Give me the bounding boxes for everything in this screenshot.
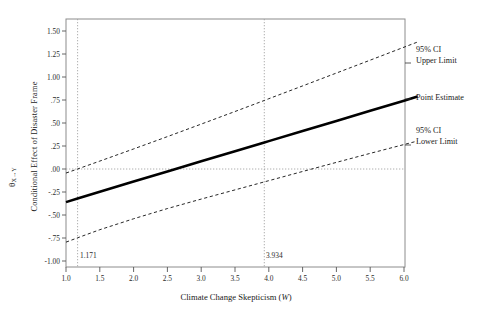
- x-axis-title-tail: ): [289, 292, 292, 302]
- xtick-label: 3.5: [230, 274, 240, 283]
- x-axis-ticks: [66, 267, 404, 272]
- theta-symbol: θ: [7, 182, 17, 187]
- ytick-label: -.50: [48, 211, 60, 220]
- vline-label-low: 1.171: [80, 251, 97, 260]
- ytick-label: -.75: [48, 234, 60, 243]
- chart-figure: 1.50 1.25 1.00 .75 .50 .25 .00 -.25 -.50…: [0, 0, 480, 321]
- x-axis-title-italic: W: [281, 292, 288, 302]
- annotation-lower-ci-line2: Lower Limit: [416, 137, 458, 148]
- y-axis-symbol-label: θX→Y: [7, 147, 17, 207]
- y-axis-ticks: [62, 31, 66, 261]
- xtick-label: 5.5: [366, 274, 376, 283]
- xtick-label: 3.0: [197, 274, 207, 283]
- x-axis-title-text: Climate Change Skepticism (: [180, 292, 281, 302]
- ytick-label: .00: [51, 165, 61, 174]
- theta-subscript: X→Y: [10, 167, 17, 182]
- y-axis-label-group: θX→Y Conditional Effect of Disaster Fram…: [4, 0, 50, 321]
- plot-frame: [66, 19, 405, 267]
- ytick-label: -.25: [48, 188, 60, 197]
- xtick-label: 5.0: [332, 274, 342, 283]
- annotation-upper-ci-line2: Upper Limit: [416, 56, 457, 67]
- ytick-label: .50: [51, 119, 61, 128]
- xtick-label: 1.0: [61, 274, 71, 283]
- annotation-upper-ci-line1: 95% CI: [416, 45, 457, 56]
- conditional-effect-plot: 1.50 1.25 1.00 .75 .50 .25 .00 -.25 -.50…: [0, 0, 480, 321]
- y-axis-title: Conditional Effect of Disaster Frame: [30, 62, 39, 232]
- annotation-lower-ci: 95% CI Lower Limit: [416, 126, 458, 147]
- annotation-point-estimate: Point Estimate: [416, 93, 464, 104]
- x-axis-title: Climate Change Skepticism (W): [66, 292, 406, 302]
- annotation-lower-ci-line1: 95% CI: [416, 126, 458, 137]
- annotation-leaders: [405, 63, 411, 145]
- xtick-label: 1.5: [95, 274, 105, 283]
- x-axis-tick-labels: 1.0 1.5 2.0 2.5 3.0 3.5 4.0 4.5 5.0 5.5 …: [61, 274, 409, 283]
- xtick-label: 4.0: [264, 274, 274, 283]
- ytick-label: .25: [51, 142, 61, 151]
- xtick-label: 4.5: [298, 274, 308, 283]
- xtick-label: 2.0: [129, 274, 139, 283]
- ytick-label: .75: [51, 96, 61, 105]
- xtick-label: 2.5: [163, 274, 173, 283]
- xtick-label: 6.0: [399, 274, 409, 283]
- vline-label-high: 3.934: [266, 251, 283, 260]
- annotation-upper-ci: 95% CI Upper Limit: [416, 45, 457, 66]
